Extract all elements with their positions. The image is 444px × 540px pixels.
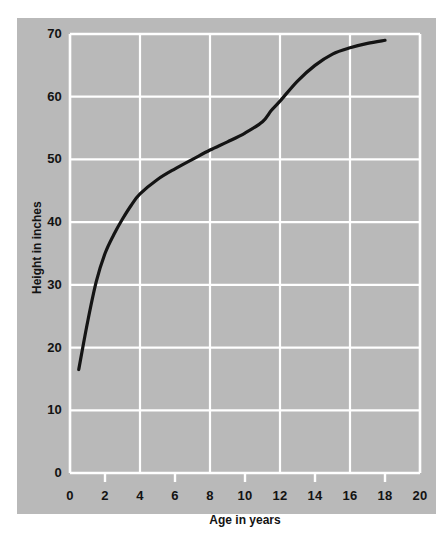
x-axis-title: Age in years <box>70 513 420 527</box>
chart-plot-svg <box>0 0 444 540</box>
y-tick-label: 60 <box>24 89 62 104</box>
y-tick-label: 70 <box>24 26 62 41</box>
x-tick-label: 16 <box>334 488 366 503</box>
x-tick-label: 4 <box>124 488 156 503</box>
gridlines-group <box>70 34 420 473</box>
chart-figure: 010203040506070 02468101214161820 Height… <box>0 0 444 540</box>
x-tick-label: 8 <box>194 488 226 503</box>
y-tick-label: 50 <box>24 151 62 166</box>
data-series-line <box>79 40 385 369</box>
axis-lines-group <box>70 34 420 473</box>
y-tick-label: 20 <box>24 340 62 355</box>
x-tick-label: 0 <box>54 488 86 503</box>
x-tick-label: 6 <box>159 488 191 503</box>
x-tick-label: 12 <box>264 488 296 503</box>
tick-marks-group <box>105 473 385 482</box>
x-tick-label: 18 <box>369 488 401 503</box>
x-tick-label: 20 <box>404 488 436 503</box>
x-tick-label: 14 <box>299 488 331 503</box>
y-tick-label: 0 <box>24 465 62 480</box>
x-tick-label: 2 <box>89 488 121 503</box>
x-tick-label: 10 <box>229 488 261 503</box>
y-tick-label: 10 <box>24 402 62 417</box>
y-axis-title: Height in inches <box>30 201 44 294</box>
